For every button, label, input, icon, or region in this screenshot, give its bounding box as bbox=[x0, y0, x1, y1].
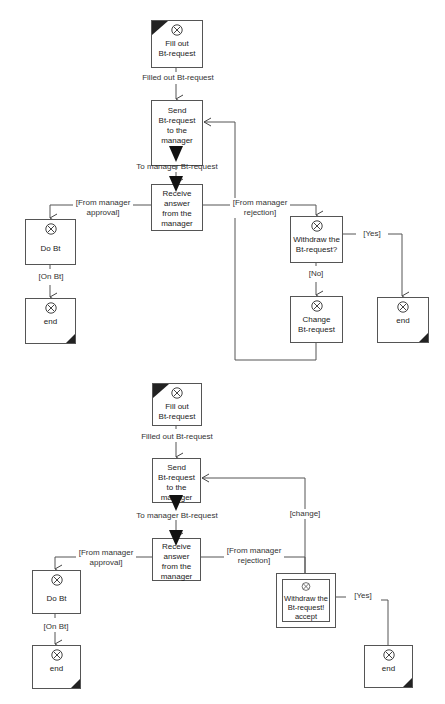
node-label: Withdraw the Bt-request? bbox=[293, 235, 340, 255]
edge-label-change: [change] bbox=[287, 509, 323, 519]
send-signal-marker bbox=[169, 495, 183, 511]
send-signal-marker bbox=[169, 146, 183, 162]
node-label: Change Bt-request bbox=[298, 315, 335, 335]
node-end-right[interactable]: end bbox=[377, 297, 429, 343]
node-label: end bbox=[396, 316, 409, 326]
object-flow-icon bbox=[311, 220, 323, 232]
edge-label-approval: [From manager approval] bbox=[73, 198, 133, 218]
node-withdraw-accept[interactable]: Withdraw the Bt-request! accept bbox=[276, 573, 336, 628]
node-label: Fill out Bt-request bbox=[159, 39, 196, 59]
object-flow-icon bbox=[45, 302, 57, 314]
object-flow-icon bbox=[383, 649, 395, 661]
diagram-canvas: Fill out Bt-request Send Bt-request to t… bbox=[0, 0, 445, 704]
node-label: Do Bt bbox=[40, 244, 60, 254]
node-label: end bbox=[44, 317, 57, 327]
node-do-bt-2[interactable]: Do Bt bbox=[32, 570, 81, 614]
receive-signal-marker bbox=[169, 176, 183, 192]
edge-label-filled-out: Filled out Bt-request bbox=[133, 73, 223, 83]
node-label: Withdraw the Bt-request! accept bbox=[284, 594, 328, 621]
node-label: Receive answer from the manager bbox=[161, 542, 193, 582]
edge-label-rejection: [From manager rejection] bbox=[230, 198, 290, 218]
node-end-right-2[interactable]: end bbox=[364, 645, 413, 688]
object-flow-icon bbox=[397, 301, 409, 313]
node-end-left-2[interactable]: end bbox=[32, 645, 81, 689]
node-fill-out[interactable]: Fill out Bt-request bbox=[151, 20, 203, 68]
node-label: Receive answer from the manager bbox=[161, 189, 193, 229]
object-flow-icon bbox=[51, 574, 63, 586]
object-flow-icon bbox=[300, 582, 312, 591]
edge-label-to-manager: To manager Bt-request bbox=[131, 162, 223, 172]
node-label: Do Bt bbox=[46, 594, 66, 604]
edge-label-yes: [Yes] bbox=[356, 229, 388, 239]
node-label: Send Bt-request to the manager bbox=[152, 106, 202, 146]
object-flow-icon bbox=[45, 223, 57, 235]
node-end-left[interactable]: end bbox=[25, 298, 76, 344]
edge-label-yes: [Yes] bbox=[347, 591, 379, 601]
node-inner-frame: Withdraw the Bt-request! accept bbox=[282, 579, 330, 622]
edge-label-rejection: [From manager rejection] bbox=[224, 546, 284, 566]
receive-signal-marker bbox=[169, 530, 183, 546]
edge-label-approval: [From manager approval] bbox=[76, 548, 136, 568]
object-flow-icon bbox=[311, 300, 323, 312]
edge-label-on-bt: [On Bt] bbox=[41, 622, 71, 632]
edge-label-no: [No] bbox=[303, 269, 329, 279]
node-label: end bbox=[382, 664, 395, 674]
node-do-bt[interactable]: Do Bt bbox=[25, 219, 76, 265]
node-change[interactable]: Change Bt-request bbox=[290, 296, 343, 343]
node-withdraw-question[interactable]: Withdraw the Bt-request? bbox=[290, 216, 343, 263]
node-label: end bbox=[50, 664, 63, 674]
node-fill-out-2[interactable]: Fill out Bt-request bbox=[152, 383, 202, 426]
node-label: Fill out Bt-request bbox=[159, 402, 196, 422]
edge-label-on-bt: [On Bt] bbox=[36, 272, 66, 282]
object-flow-icon bbox=[171, 24, 183, 36]
edge-label-to-manager: To manager Bt-request bbox=[131, 511, 223, 521]
object-flow-icon bbox=[51, 649, 63, 661]
object-flow-icon bbox=[171, 387, 183, 399]
edge-label-filled-out: Filled out Bt-request bbox=[132, 432, 222, 442]
